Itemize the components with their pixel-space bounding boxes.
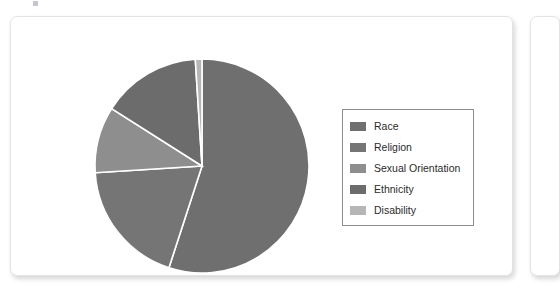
chart-legend: Race Religion Sexual Orientation Ethnici…	[342, 109, 474, 226]
legend-item-religion[interactable]: Religion	[350, 137, 473, 158]
legend-item-ethnicity[interactable]: Ethnicity	[350, 179, 473, 200]
page-artifact-mark	[33, 1, 38, 6]
legend-label-race: Race	[374, 121, 399, 132]
legend-item-race[interactable]: Race	[350, 116, 473, 137]
pie-chart	[86, 50, 318, 282]
legend-swatch-religion	[350, 143, 366, 152]
legend-label-religion: Religion	[374, 142, 412, 153]
pie-chart-card: Race Religion Sexual Orientation Ethnici…	[10, 16, 513, 276]
legend-item-sexual-orientation[interactable]: Sexual Orientation	[350, 158, 473, 179]
legend-swatch-disability	[350, 206, 366, 215]
legend-label-disability: Disability	[374, 205, 416, 216]
legend-swatch-race	[350, 122, 366, 131]
legend-item-disability[interactable]: Disability	[350, 200, 473, 221]
adjacent-panel	[530, 16, 560, 276]
legend-label-sexual-orientation: Sexual Orientation	[374, 163, 460, 174]
legend-swatch-sexual-orientation	[350, 164, 366, 173]
pie-chart-svg	[86, 50, 318, 282]
legend-swatch-ethnicity	[350, 185, 366, 194]
legend-label-ethnicity: Ethnicity	[374, 184, 414, 195]
